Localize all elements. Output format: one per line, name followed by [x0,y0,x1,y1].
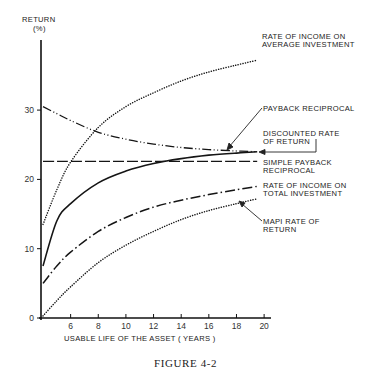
y-tick-label: 20 [25,174,35,184]
mapi-rate-curve [43,199,257,316]
label-avg-investment-2: AVERAGE INVESTMENT [262,40,355,49]
payback-reciprocal-curve [43,107,257,152]
label-payback: PAYBACK RECIPROCAL [263,104,355,113]
discounted-arrowhead-icon [259,150,265,155]
axes: 010203068101214161820 [25,40,271,331]
label-mapi-2: RETURN [263,225,296,234]
chart-canvas: 010203068101214161820 RETURN (%) USABLE … [0,0,374,371]
y-axis-title: RETURN [22,15,55,24]
y-axis-unit: (%) [33,24,46,33]
mapi-leader-line [242,204,262,221]
x-tick-label: 6 [68,321,73,331]
x-tick-label: 12 [149,321,159,331]
x-tick-label: 10 [121,321,131,331]
label-total-investment-2: TOTAL INVESTMENT [263,189,342,198]
total-investment-curve [43,186,257,283]
x-tick-label: 8 [96,321,101,331]
payback-arrowhead-icon [227,143,233,150]
x-tick-label: 20 [259,321,269,331]
label-simple-payback-2: RECIPROCAL [263,166,315,175]
y-tick-label: 10 [25,244,35,254]
x-tick-label: 14 [176,321,186,331]
curves [43,60,257,316]
label-discounted-2: OF RETURN [263,137,310,146]
x-tick-label: 18 [232,321,242,331]
x-tick-label: 16 [204,321,214,331]
figure-caption: FIGURE 4-2 [154,357,217,369]
x-axis-title: USABLE LIFE OF THE ASSET ( YEARS ) [64,334,216,343]
discounted-rate-curve [43,152,257,266]
y-tick-label: 0 [29,313,34,323]
y-tick-label: 30 [25,105,35,115]
payback-leader-line [229,108,262,147]
